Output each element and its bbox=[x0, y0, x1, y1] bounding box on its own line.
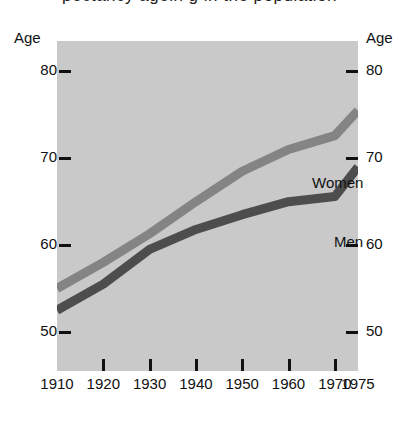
y-tick-mark-left-60 bbox=[59, 244, 71, 247]
series-label-women: Women bbox=[312, 174, 363, 191]
y-tick-mark-left-80 bbox=[59, 70, 71, 73]
series-canvas bbox=[57, 41, 358, 371]
y-tick-label-right-60: 60 bbox=[366, 236, 406, 252]
x-tick-mark-1930 bbox=[149, 359, 152, 371]
y-tick-label-left-60: 60 bbox=[17, 236, 57, 252]
series-label-men: Men bbox=[334, 233, 363, 250]
cropped-title-text: pectancy agein g in the population bbox=[0, 0, 337, 6]
x-tick-label-1920: 1920 bbox=[80, 375, 126, 392]
x-tick-label-1910: 1910 bbox=[34, 375, 80, 392]
y-tick-label-right-80: 80 bbox=[366, 62, 406, 78]
y-tick-mark-right-60 bbox=[346, 244, 358, 247]
plot-area: Women Men bbox=[57, 41, 358, 371]
y-tick-label-right-50: 50 bbox=[366, 323, 406, 339]
y-axis-title-right: Age bbox=[366, 29, 393, 46]
y-axis-title-left: Age bbox=[14, 29, 41, 46]
x-tick-mark-1920 bbox=[102, 359, 105, 371]
y-tick-mark-right-50 bbox=[346, 331, 358, 334]
y-tick-mark-left-50 bbox=[59, 331, 71, 334]
cropped-title-remnant: pectancy agein g in the population bbox=[0, 0, 417, 6]
x-tick-label-1960: 1960 bbox=[266, 375, 312, 392]
x-tick-mark-1950 bbox=[241, 359, 244, 371]
x-tick-mark-1940 bbox=[195, 359, 198, 371]
x-tick-mark-1960 bbox=[288, 359, 291, 371]
y-tick-mark-right-80 bbox=[346, 70, 358, 73]
y-tick-mark-right-70 bbox=[346, 157, 358, 160]
x-tick-label-1930: 1930 bbox=[127, 375, 173, 392]
x-tick-label-1975: 1975 bbox=[335, 375, 381, 392]
x-tick-label-1940: 1940 bbox=[173, 375, 219, 392]
chart-root: pectancy agein g in the population Age A… bbox=[0, 0, 417, 435]
x-tick-mark-1970 bbox=[334, 359, 337, 371]
y-tick-label-left-70: 70 bbox=[17, 149, 57, 165]
x-tick-label-1950: 1950 bbox=[219, 375, 265, 392]
y-tick-label-right-70: 70 bbox=[366, 149, 406, 165]
y-tick-label-left-80: 80 bbox=[17, 62, 57, 78]
y-tick-mark-left-70 bbox=[59, 157, 71, 160]
y-tick-label-left-50: 50 bbox=[17, 323, 57, 339]
